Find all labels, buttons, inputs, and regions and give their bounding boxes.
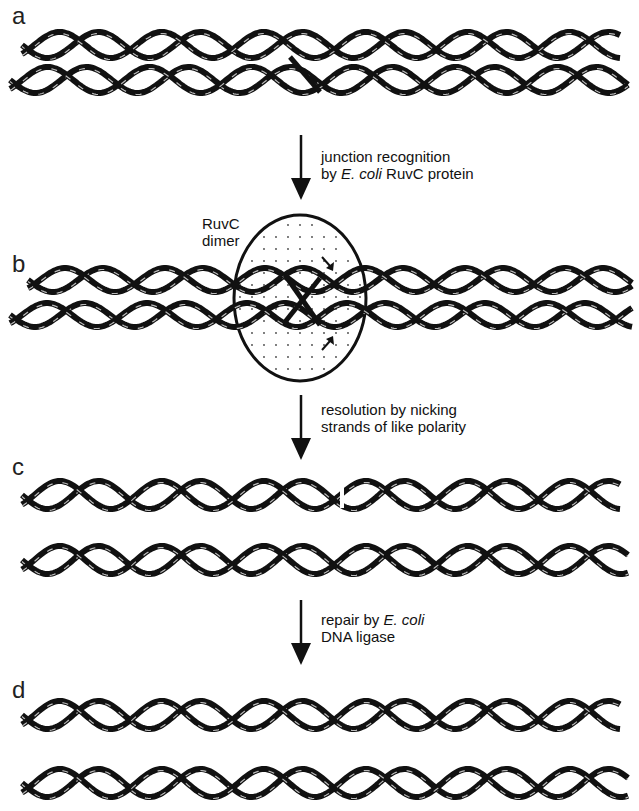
stipple-dot [287,356,289,358]
stipple-dot [263,296,265,298]
step1-text-b: RuvC protein [382,165,474,182]
stipple-dot [323,248,325,250]
stipple-dot [323,332,325,334]
stipple-dot [239,296,241,298]
stipple-dot [335,356,337,358]
stipple-dot [335,236,337,238]
stipple-dot [311,332,313,334]
stipple-dot [299,236,301,238]
stipple-dot [287,248,289,250]
stipple-dot [359,296,361,298]
stipple-dot [323,296,325,298]
stipple-dot [311,236,313,238]
ruvc-label-line2: dimer [202,232,240,249]
stipple-dot [251,284,253,286]
step3-line1: repair by E. coli [321,611,424,628]
stipple-dot [335,260,337,262]
helix-c-top [22,481,620,511]
helix-d-bottom [22,769,628,799]
stipple-dot [347,344,349,346]
stipple-dot [347,284,349,286]
stipple-dot [263,260,265,262]
diagram-canvas [0,0,639,811]
panel-label-c: c [12,453,24,481]
step2-line1: resolution by nicking [321,401,466,418]
stipple-dot [311,248,313,250]
stipple-dot [263,344,265,346]
panel-label-b: b [12,250,25,278]
stipple-dot [347,332,349,334]
stipple-dot [299,332,301,334]
stipple-dot [299,272,301,274]
stipple-dot [251,308,253,310]
stipple-dot [275,356,277,358]
stipple-dot [323,356,325,358]
stipple-dot [299,356,301,358]
step-caption-2: resolution by nicking strands of like po… [321,401,466,435]
helix-a-top [22,32,620,60]
step3-text-a: repair by [321,611,384,628]
stipple-dot [275,260,277,262]
stipple-dot [263,356,265,358]
step3-species: E. coli [384,611,425,628]
stipple-dot [287,236,289,238]
arrow-down-1-head [291,178,311,200]
panel-label-d: d [12,676,25,704]
stipple-dot [299,368,301,370]
stipple-dot [311,356,313,358]
step1-line2: by E. coli RuvC protein [321,165,474,182]
stipple-dot [335,272,337,274]
stipple-dot [263,236,265,238]
stipple-dot [311,344,313,346]
stipple-dot [287,296,289,298]
step3-line2: DNA ligase [321,628,424,645]
stipple-dot [299,248,301,250]
stipple-dot [275,368,277,370]
stipple-dot [275,344,277,346]
stipple-dot [251,260,253,262]
helix-d-top [22,701,620,731]
stipple-dot [299,224,301,226]
stipple-dot [287,224,289,226]
stipple-dot [299,344,301,346]
stipple-dot [323,236,325,238]
stipple-dot [359,284,361,286]
ruvc-dimer-label: RuvC dimer [202,215,240,249]
stipple-dot [311,296,313,298]
stipple-dot [287,332,289,334]
stipple-dot [299,320,301,322]
step1-species: E. coli [341,165,382,182]
stipple-dot [287,260,289,262]
stipple-dot [251,296,253,298]
nick-gap [340,478,344,508]
stipple-dot [263,320,265,322]
stipple-dot [335,344,337,346]
arrow-down-2-head [291,438,311,460]
panel-label-a: a [12,2,25,30]
step2-line2: strands of like polarity [321,418,466,435]
stipple-dot [311,368,313,370]
stipple-dot [287,308,289,310]
helix-c-bottom [22,546,628,576]
stipple-dot [263,248,265,250]
stipple-dot [347,260,349,262]
stipple-dot [311,260,313,262]
stipple-dot [335,296,337,298]
stipple-dot [347,296,349,298]
arrow-down-3-head [291,643,311,665]
stipple-dot [275,236,277,238]
stipple-dot [263,332,265,334]
stipple-dot [323,368,325,370]
step1-line1: junction recognition [321,148,474,165]
step-caption-3: repair by E. coli DNA ligase [321,611,424,645]
stipple-dot [287,344,289,346]
stipple-dot [347,308,349,310]
stipple-dot [275,332,277,334]
stipple-dot [335,320,337,322]
stipple-dot [299,260,301,262]
stipple-dot [275,296,277,298]
stipple-dot [251,332,253,334]
stipple-dot [263,272,265,274]
step1-text-a: by [321,165,341,182]
stipple-dot [251,344,253,346]
